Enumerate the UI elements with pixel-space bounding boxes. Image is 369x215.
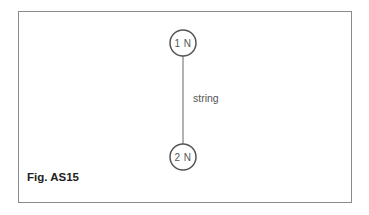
node-top: 1 N <box>170 30 196 56</box>
node-top-label: 1 N <box>174 38 191 49</box>
figure-caption: Fig. AS15 <box>27 171 79 183</box>
node-bottom-label: 2 N <box>174 152 191 163</box>
node-bottom: 2 N <box>170 144 196 170</box>
string-label: string <box>193 92 219 104</box>
